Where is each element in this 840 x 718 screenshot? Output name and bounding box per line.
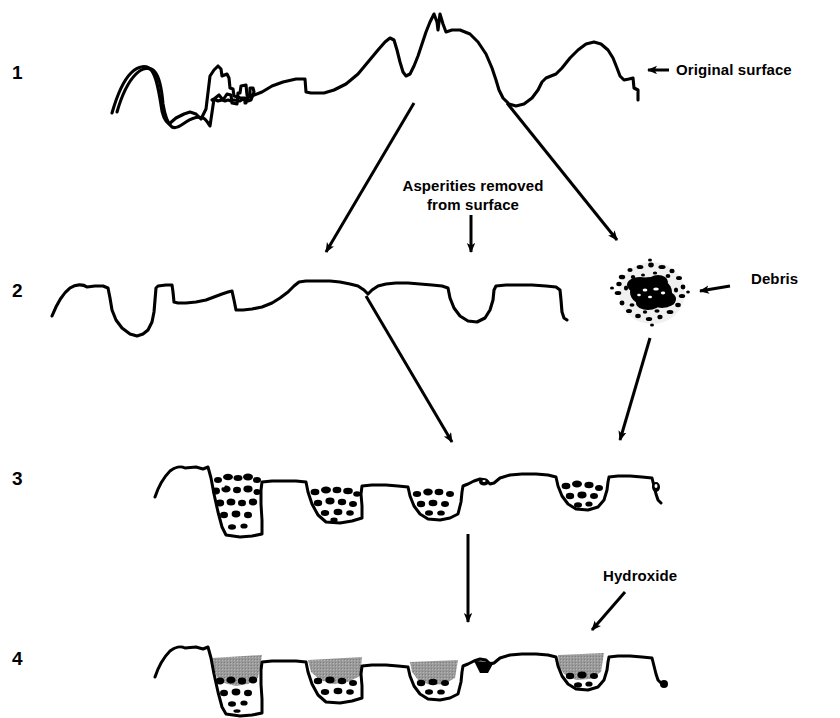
stage-number-2: 2 <box>12 280 23 302</box>
asperities-removed-line-1: Asperities removed <box>388 176 558 195</box>
hydroxide-pointer-arrow <box>592 592 625 630</box>
arrow-debris-to-stage3 <box>620 338 650 440</box>
asperities-removed-label: Asperities removed from surface <box>388 176 558 214</box>
arrow-surface-to-debris <box>507 103 617 240</box>
stage-2-profile <box>52 281 567 336</box>
figure-root: 1 2 3 4 Original surface Asperities remo… <box>0 0 840 718</box>
debris-label: Debris <box>751 269 798 288</box>
stage-1-profile-trace <box>112 14 638 124</box>
hydroxide-label: Hydroxide <box>603 566 677 585</box>
stage-1-profile <box>117 68 254 127</box>
asperities-removed-line-2: from surface <box>388 195 558 214</box>
arrow-stage2-to-stage3 <box>366 296 452 442</box>
diagram-canvas <box>0 0 840 718</box>
stage-number-3: 3 <box>12 468 23 490</box>
stage-number-1: 1 <box>12 62 23 84</box>
stage-number-4: 4 <box>12 648 23 670</box>
debris-cluster <box>610 259 690 327</box>
original-surface-label: Original surface <box>676 60 792 79</box>
debris-pointer-arrow <box>700 286 730 291</box>
